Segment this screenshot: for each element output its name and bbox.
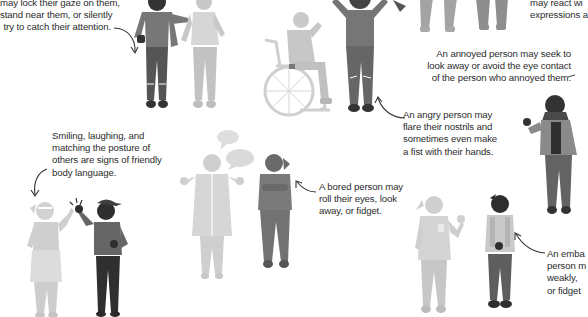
angry-man-figure (332, 0, 388, 112)
caption-line: may react wi (530, 0, 588, 9)
caption-line: away, or fidget. (319, 205, 403, 217)
annoyed-woman-hijab-figure (523, 95, 577, 214)
caption-line: stand near them, or silently (0, 9, 111, 21)
caption-line: of the person who annoyed them. (400, 72, 571, 84)
speech-bubbles (217, 130, 254, 170)
high-five-boy-figure (75, 200, 128, 317)
caption-line: weakly, (547, 272, 586, 284)
caption-embarrassed: An emba person m weakly, or fidget (547, 248, 586, 297)
caption-line: or fidget (547, 285, 586, 297)
surprised-pair-legs (420, 0, 508, 32)
caption-line: An emba (547, 248, 586, 260)
caption-line: person m (547, 260, 586, 272)
waving-woman-figure (415, 196, 465, 313)
caption-line: body language. (52, 167, 162, 179)
caption-line: sometimes even make (403, 133, 497, 145)
caption-surprised: may react wi expressions a (530, 0, 588, 21)
caption-line: Smiling, laughing, and (52, 130, 162, 142)
admiring-man-figure (134, 0, 190, 108)
caption-annoyed: An annoyed person may seek to look away … (400, 48, 571, 85)
talking-man-figure (180, 154, 244, 279)
caption-line: flare their nostrils and (403, 121, 497, 133)
caption-line: may lock their gaze on them, (0, 0, 111, 9)
caption-line: a fist with their hands. (403, 146, 497, 158)
caption-attraction: may lock their gaze on them, stand near … (0, 0, 111, 34)
admired-woman-figure (181, 0, 225, 108)
caption-line: others are signs of friendly (52, 154, 162, 166)
caption-angry: An angry person may flare their nostrils… (403, 109, 497, 158)
embarrassed-boy-figure (485, 194, 515, 308)
bored-girl-figure (258, 154, 292, 268)
caption-friendly: Smiling, laughing, and matching the post… (52, 130, 162, 179)
caption-line: An angry person may (403, 109, 497, 121)
caption-line: A bored person may (319, 181, 403, 193)
caption-line: look away or avoid the eye contact (400, 60, 571, 72)
caption-bored: A bored person may roll their eyes, look… (319, 181, 403, 218)
caption-line: matching the posture of (52, 142, 162, 154)
caption-line: An annoyed person may seek to (400, 48, 571, 60)
high-five-girl-figure (27, 202, 74, 317)
wheelchair-user-figure (265, 12, 332, 115)
caption-line: expressions a (530, 9, 588, 21)
caption-line: try to catch their attention. (0, 21, 111, 33)
caption-line: roll their eyes, look (319, 193, 403, 205)
